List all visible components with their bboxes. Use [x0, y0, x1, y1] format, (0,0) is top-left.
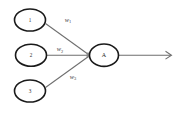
input-node-3: 3	[15, 80, 46, 102]
input-node-2-label: 2	[30, 52, 33, 58]
neuron-diagram: 1 2 3 A w1 w2 w3	[0, 0, 180, 117]
summation-node-a: A	[90, 44, 119, 66]
weight-subscript-2: 2	[61, 49, 63, 54]
input-node-2: 2	[16, 44, 47, 66]
weight-label-1: w1	[65, 16, 71, 24]
input-node-3-label: 3	[29, 88, 32, 94]
edge-input-1-to-summation	[46, 24, 89, 55]
weight-label-2: w2	[57, 45, 63, 53]
edges-group	[46, 24, 89, 88]
weight-subscript-1: 1	[69, 19, 71, 24]
input-node-1-label: 1	[29, 17, 32, 23]
weight-subscript-3: 3	[74, 76, 77, 81]
weight-label-3: w3	[70, 73, 77, 81]
neuron-diagram-canvas: 1 2 3 A w1 w2 w3	[0, 0, 180, 117]
summation-node-a-label: A	[102, 52, 107, 58]
edge-input-3-to-summation	[46, 57, 89, 88]
output-arrow-group	[118, 51, 172, 59]
input-node-1: 1	[15, 9, 46, 31]
